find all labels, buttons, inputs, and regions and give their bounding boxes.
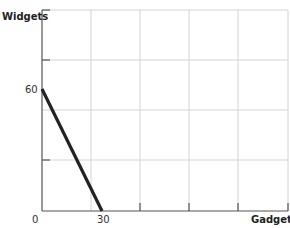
x-tick-label-30: 30 — [97, 214, 110, 225]
y-axis-title: Widgets — [2, 11, 48, 22]
grid — [42, 10, 288, 211]
x-tick-label-0: 0 — [32, 214, 38, 225]
y-tick-label-60: 60 — [25, 84, 38, 95]
ppf-line — [42, 89, 102, 211]
x-axis-title: Gadgets — [251, 214, 290, 225]
chart-plot-area — [0, 0, 290, 228]
